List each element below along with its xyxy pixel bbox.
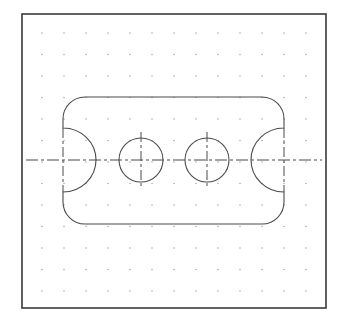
grid-dot [305,290,306,291]
grid-dot [283,32,284,33]
grid-dot [107,247,108,248]
grid-dot [283,54,284,55]
grid-dot [261,140,262,141]
grid-dot [107,204,108,205]
grid-dot [41,161,42,162]
grid-dot [41,32,42,33]
grid-dot [107,269,108,270]
grid-dot [107,75,108,76]
grid-dot [283,140,284,141]
grid-dot [63,183,64,184]
grid-dot [195,204,196,205]
grid-dot [261,54,262,55]
grid-dot [173,226,174,227]
grid-dot [173,75,174,76]
grid-dot [261,290,262,291]
grid-dot [129,75,130,76]
grid-dot [151,247,152,248]
grid-dot [239,140,240,141]
grid-dot [195,161,196,162]
grid-dot [195,54,196,55]
grid-dot [261,75,262,76]
grid-dot [239,204,240,205]
grid-dot [151,118,152,119]
grid-dot [107,290,108,291]
grid-dot [41,140,42,141]
grid-dot [195,118,196,119]
grid-dot [85,75,86,76]
grid-dot [85,269,86,270]
grid-dot [63,97,64,98]
grid-dot [85,204,86,205]
grid-dot [305,54,306,55]
grid-dot [41,97,42,98]
grid-dot [261,118,262,119]
grid-dot [195,290,196,291]
grid-dot [107,226,108,227]
grid-dot [173,32,174,33]
grid-dot [173,183,174,184]
grid-dot [41,204,42,205]
grid-dot [63,161,64,162]
grid-dot [129,32,130,33]
grid-dot [63,32,64,33]
grid-dot [283,97,284,98]
grid-dot [85,118,86,119]
grid-dot [261,32,262,33]
grid-dot [239,290,240,291]
grid-dot [217,226,218,227]
grid-dot [129,226,130,227]
grid-dot [173,161,174,162]
grid-dot [261,204,262,205]
grid-dot [85,32,86,33]
grid-dot [239,247,240,248]
grid-dot [85,247,86,248]
grid-dot [63,118,64,119]
grid-dot [85,161,86,162]
grid-dot [107,140,108,141]
grid-dot [63,290,64,291]
grid-dot [261,161,262,162]
grid-dot [129,54,130,55]
grid-dot [283,290,284,291]
grid-dot [283,226,284,227]
grid-dot [261,226,262,227]
grid-dot [305,75,306,76]
grid-dot [195,32,196,33]
grid-dot [41,183,42,184]
grid-dot [151,54,152,55]
grid-dot [217,247,218,248]
grid-dot [195,269,196,270]
grid-dot [63,269,64,270]
grid-dot [261,269,262,270]
grid-dot [305,161,306,162]
grid-dot [41,269,42,270]
grid-dot [41,290,42,291]
grid-dot [217,118,218,119]
grid-dot [239,75,240,76]
grid-dot [85,140,86,141]
grid-dot [151,32,152,33]
grid-dot [239,226,240,227]
grid-dot [173,140,174,141]
grid-dot [151,204,152,205]
grid-dot [195,75,196,76]
grid-dot [173,290,174,291]
grid-dot [41,226,42,227]
grid-dot [305,140,306,141]
grid-dot [151,269,152,270]
grid-dot [63,226,64,227]
grid-dots [41,32,306,291]
grid-dot [129,290,130,291]
grid-dot [85,290,86,291]
grid-dot [239,54,240,55]
grid-dot [129,161,130,162]
grid-dot [63,247,64,248]
grid-dot [239,32,240,33]
grid-dot [283,183,284,184]
grid-dot [283,75,284,76]
grid-dot [305,97,306,98]
grid-dot [85,226,86,227]
grid-dot [63,54,64,55]
grid-dot [151,226,152,227]
